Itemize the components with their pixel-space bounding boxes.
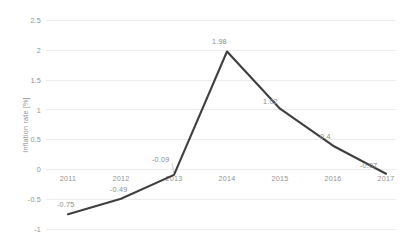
label-leader-line [172, 163, 174, 173]
y-tick-label: 2.5 [30, 16, 41, 25]
x-tick-label-2017: 2017 [378, 174, 395, 183]
data-labels: -0.75 -0.49 -0.09 1.98 1.02 0.4 -0.07 [57, 37, 377, 209]
y-tick-label: 0 [37, 165, 41, 174]
y-tick-label: 1.5 [30, 76, 41, 85]
data-label-2011: -0.75 [57, 200, 74, 209]
data-label-2014: 1.98 [212, 37, 227, 46]
x-tick-label-2016: 2016 [325, 174, 342, 183]
y-tick-label: 2 [37, 46, 41, 55]
x-tick-label-2015: 2015 [272, 174, 289, 183]
x-tick-label-2011: 2011 [60, 174, 76, 183]
data-label-2012: -0.49 [110, 185, 127, 194]
y-tick-label: 0.5 [30, 135, 41, 144]
y-tick-label: -1 [34, 225, 41, 234]
chart-canvas: 2.5 2 1.5 1 0.5 0 -0.5 -1 Inflation rate… [0, 0, 402, 251]
x-tick-label-2014: 2014 [219, 174, 236, 183]
data-label-2017: -0.07 [360, 161, 377, 170]
data-label-2016: 0.4 [320, 132, 331, 141]
y-axis-title: Inflation rate [%] [21, 97, 30, 153]
x-axis-ticks: 2011 2012 2013 2014 2015 2016 2017 [60, 174, 395, 183]
gridlines [46, 21, 396, 230]
data-label-2013: -0.09 [152, 155, 169, 164]
inflation-rate-line-chart: 2.5 2 1.5 1 0.5 0 -0.5 -1 Inflation rate… [0, 0, 402, 251]
data-label-2015: 1.02 [263, 97, 278, 106]
x-tick-label-2012: 2012 [113, 174, 130, 183]
y-tick-label: -0.5 [28, 195, 41, 204]
y-tick-label: 1 [37, 106, 41, 115]
